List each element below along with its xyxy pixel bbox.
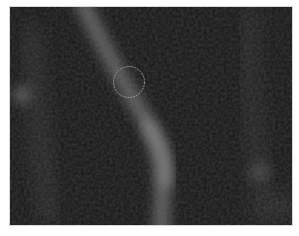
micrograph-image bbox=[10, 7, 292, 225]
micrograph-frame bbox=[10, 7, 292, 225]
